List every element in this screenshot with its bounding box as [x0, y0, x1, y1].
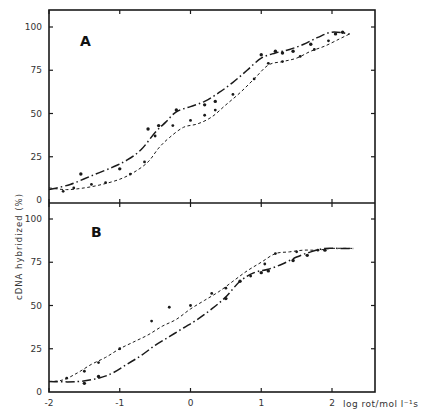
data-point: [224, 287, 227, 290]
data-point: [249, 275, 252, 278]
data-point: [327, 39, 330, 42]
data-point: [306, 254, 309, 257]
data-point: [309, 43, 312, 46]
dashed-curve: [49, 34, 350, 190]
y-tick-label: 0: [36, 195, 42, 205]
data-point: [72, 186, 75, 189]
data-point: [143, 161, 146, 164]
data-point: [291, 50, 294, 53]
x-tick-labels: -2-1012: [45, 398, 335, 408]
data-point: [238, 280, 241, 283]
data-point: [313, 48, 316, 51]
data-point: [299, 55, 302, 58]
solid-curve: [49, 32, 350, 190]
data-point: [203, 103, 206, 106]
data-point: [83, 382, 86, 385]
data-point: [281, 51, 284, 54]
y-tick-label: 75: [31, 65, 42, 75]
data-point: [146, 127, 149, 130]
data-point: [118, 347, 121, 350]
data-point: [267, 269, 270, 272]
data-point: [90, 183, 93, 186]
data-point: [83, 370, 86, 373]
outer-border: [49, 10, 375, 392]
data-point: [203, 114, 206, 117]
panel-a: [49, 30, 350, 192]
data-point: [253, 78, 256, 81]
plot-frame: [49, 10, 375, 392]
data-point: [118, 167, 121, 170]
data-point: [171, 124, 174, 127]
data-point: [157, 124, 160, 127]
data-point: [189, 119, 192, 122]
data-point: [150, 320, 153, 323]
data-point: [97, 375, 100, 378]
data-point: [323, 248, 326, 251]
data-point: [62, 190, 65, 193]
data-point: [224, 297, 227, 300]
data-point: [65, 377, 68, 380]
data-point: [210, 292, 213, 295]
y-axis-title: cDNA hybridized (%): [14, 193, 24, 300]
y-tick-label: 0: [36, 387, 42, 397]
panel-label-a: A: [80, 33, 91, 49]
x-tick-label: 1: [258, 398, 264, 408]
data-point: [79, 172, 82, 175]
data-point: [316, 249, 319, 252]
data-point: [214, 109, 217, 112]
data-point: [104, 181, 107, 184]
data-point: [295, 250, 298, 253]
data-point: [97, 361, 100, 364]
data-point: [274, 50, 277, 53]
y-tick-labels: 00252550507575100100: [25, 22, 42, 397]
data-point: [281, 60, 284, 63]
data-point: [334, 32, 337, 35]
solid-curve: [49, 248, 353, 382]
data-point: [129, 173, 132, 176]
data-point: [232, 93, 235, 96]
y-tick-label: 100: [25, 214, 42, 224]
data-point: [175, 108, 178, 111]
x-tick-label: -1: [115, 398, 124, 408]
data-point: [189, 304, 192, 307]
x-tick-label: 2: [329, 398, 335, 408]
x-tick-label: 0: [188, 398, 194, 408]
dashed-curve: [49, 248, 353, 381]
x-tick-label: -2: [45, 398, 54, 408]
data-point: [260, 53, 263, 56]
y-tick-label: 25: [31, 152, 42, 162]
data-point: [291, 259, 294, 262]
data-point: [267, 62, 270, 65]
data-point: [263, 263, 266, 266]
y-tick-label: 100: [25, 22, 42, 32]
y-tick-label: 50: [31, 109, 43, 119]
data-point: [260, 271, 263, 274]
figure: A B cDNA hybridized (%) log rot/mol l⁻¹s…: [0, 0, 421, 416]
x-axis-title: log rot/mol l⁻¹s: [343, 399, 418, 409]
y-tick-label: 75: [31, 257, 42, 267]
panel-b: [49, 248, 353, 385]
data-point: [274, 252, 277, 255]
panel-label-b: B: [91, 224, 102, 240]
y-tick-label: 50: [31, 301, 43, 311]
data-point: [168, 306, 171, 309]
y-tick-label: 25: [31, 344, 42, 354]
data-point: [341, 30, 344, 33]
data-point: [214, 100, 217, 103]
data-point: [154, 135, 157, 138]
